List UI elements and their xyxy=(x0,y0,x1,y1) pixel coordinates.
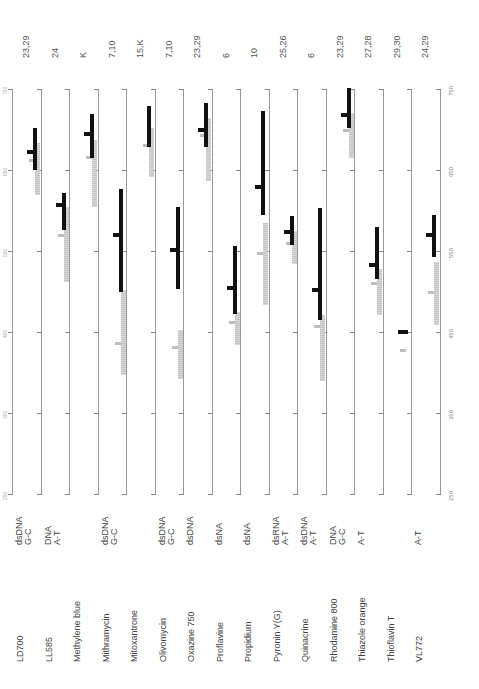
reference-label: 23,29 xyxy=(21,35,31,58)
emission-peak-marker xyxy=(113,233,121,237)
emission-range-bar xyxy=(233,246,237,314)
reference-label: 10 xyxy=(249,48,259,58)
axis-tick xyxy=(122,170,127,171)
axis-tick xyxy=(151,89,156,90)
column-divider xyxy=(155,89,156,494)
axis-tick xyxy=(379,413,384,414)
axis-tick xyxy=(379,89,384,90)
axis-tick xyxy=(293,413,298,414)
reference-label: 7,10 xyxy=(164,40,174,58)
axis-tick xyxy=(8,332,13,333)
axis-tick xyxy=(379,332,384,333)
absorption-range-bar xyxy=(235,312,240,345)
axis-tick xyxy=(151,494,156,495)
absorption-peak-marker xyxy=(428,291,434,294)
specificity-label: dsDNA xyxy=(186,516,195,545)
axis-label-left: 350 xyxy=(2,411,8,419)
specificity-label: A-T xyxy=(357,531,366,546)
dye-name: LL585 xyxy=(44,637,54,662)
absorption-range-bar xyxy=(263,223,268,305)
axis-label-right: 750 xyxy=(448,86,454,96)
axis-tick xyxy=(322,494,327,495)
emission-peak-marker xyxy=(56,203,64,207)
column-divider xyxy=(297,89,298,494)
emission-range-bar xyxy=(62,193,66,230)
axis-tick xyxy=(265,494,270,495)
axis-label-left: 250 xyxy=(2,492,8,500)
emission-range-bar xyxy=(375,227,379,279)
column-divider xyxy=(183,89,184,494)
axis-tick xyxy=(293,89,298,90)
axis-tick xyxy=(436,170,441,171)
emission-range-bar xyxy=(318,208,322,320)
emission-peak-marker xyxy=(284,230,292,234)
axis-tick xyxy=(208,251,213,252)
axis-tick xyxy=(208,494,213,495)
column-divider xyxy=(269,89,270,494)
axis-tick xyxy=(265,413,270,414)
axis-tick xyxy=(236,89,241,90)
specificity-label: dsNA xyxy=(215,523,224,545)
specificity-label-2: A-T xyxy=(281,531,290,546)
specificity-label: dsNA xyxy=(243,523,252,545)
axis-tick xyxy=(8,494,13,495)
emission-peak-marker xyxy=(227,286,235,290)
dye-name: Rhodamine 800 xyxy=(329,598,339,662)
axis-tick xyxy=(407,89,412,90)
absorption-peak-marker xyxy=(314,325,320,328)
reference-label: 24 xyxy=(50,48,60,58)
axis-label-right: 650 xyxy=(448,167,454,177)
dye-name: Proflavine xyxy=(215,622,225,662)
axis-tick xyxy=(122,251,127,252)
axis-tick xyxy=(350,332,355,333)
dye-name: Propidium xyxy=(243,621,253,662)
absorption-peak-marker xyxy=(172,346,178,349)
axis-label-right: 450 xyxy=(448,329,454,339)
axis-tick xyxy=(208,89,213,90)
axis-tick xyxy=(322,89,327,90)
dye-name: Pyronin Y(G) xyxy=(272,610,282,662)
axis-tick xyxy=(293,170,298,171)
axis-tick xyxy=(8,89,13,90)
axis-tick xyxy=(94,89,99,90)
column-divider xyxy=(212,89,213,494)
axis-tick xyxy=(8,413,13,414)
axis-tick xyxy=(350,170,355,171)
emission-peak-marker xyxy=(426,233,434,237)
specificity-label-2: G-C xyxy=(338,529,347,546)
emission-peak-marker xyxy=(255,185,263,189)
absorption-range-bar xyxy=(121,290,126,375)
axis-tick xyxy=(65,332,70,333)
axis-tick xyxy=(122,89,127,90)
axis-tick xyxy=(208,413,213,414)
dye-name: Thiazole orange xyxy=(357,597,367,662)
axis-tick xyxy=(407,413,412,414)
axis-tick xyxy=(265,170,270,171)
axis-tick xyxy=(151,413,156,414)
axis-label-left: 550 xyxy=(2,249,8,257)
reference-label: 23,29 xyxy=(335,35,345,58)
reference-label: 7,10 xyxy=(107,40,117,58)
axis-label-right: 350 xyxy=(448,410,454,420)
axis-tick xyxy=(208,332,213,333)
absorption-peak-marker xyxy=(343,129,349,132)
axis-label-left: 750 xyxy=(2,87,8,95)
reference-label: 29,30 xyxy=(392,35,402,58)
column-divider xyxy=(326,89,327,494)
emission-range-bar xyxy=(261,111,265,215)
axis-tick xyxy=(350,251,355,252)
axis-tick xyxy=(179,89,184,90)
reference-label: 15,K xyxy=(135,39,145,58)
specificity-label-2: A-T xyxy=(53,531,62,546)
emission-peak-marker xyxy=(369,263,377,267)
dye-name: VL772 xyxy=(414,636,424,662)
emission-peak-marker xyxy=(170,248,178,252)
column-divider xyxy=(354,89,355,494)
specificity-label-2: G-C xyxy=(167,529,176,546)
column-divider xyxy=(69,89,70,494)
absorption-peak-marker xyxy=(229,321,235,324)
axis-tick xyxy=(179,251,184,252)
column-divider xyxy=(126,89,127,494)
axis-tick xyxy=(65,494,70,495)
dye-name: LD700 xyxy=(15,635,25,662)
